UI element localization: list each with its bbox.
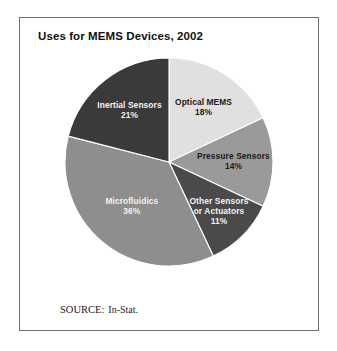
source-note: SOURCE:In-Stat. [60, 304, 138, 315]
pie-slice-label-line: Optical MEMS [175, 97, 232, 107]
pie-chart: Optical MEMS18%Pressure Sensors14%Other … [20, 56, 318, 274]
pie-slice-label-line: 14% [225, 161, 243, 171]
pie-slice-label-line: 21% [121, 110, 139, 120]
pie-slice-label-line: Microfluidics [105, 196, 158, 206]
pie-slice-label-line: Pressure Sensors [197, 151, 270, 161]
pie-slice-label-line: Other Sensors [190, 196, 249, 206]
pie-slice-label-line: 36% [123, 206, 141, 216]
pie-slice-label-line: 11% [211, 216, 228, 226]
pie-slice-label-line: or Actuators [194, 206, 245, 216]
source-label: SOURCE: [60, 304, 104, 315]
source-value: In-Stat. [108, 304, 138, 315]
pie-slice-label-line: 18% [195, 107, 213, 117]
page-title: Uses for MEMS Devices, 2002 [38, 30, 203, 42]
pie-slice-label-line: Inertial Sensors [97, 100, 162, 110]
figure-frame: Uses for MEMS Devices, 2002 Optical MEMS… [19, 17, 319, 331]
pie-chart-svg: Optical MEMS18%Pressure Sensors14%Other … [63, 56, 275, 268]
